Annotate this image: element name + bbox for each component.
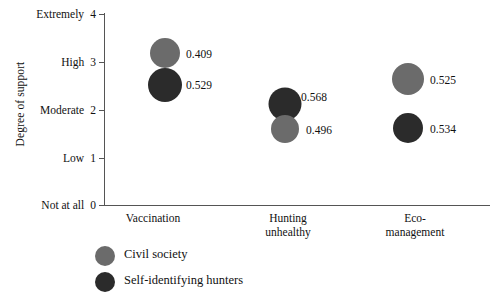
y-tick-4-num: 4 bbox=[87, 8, 96, 20]
x-category-eco-management-line1: Eco- bbox=[345, 212, 485, 226]
bubble-value-vaccination-civil-society: 0.409 bbox=[186, 48, 212, 60]
bubble-value-hunting-unhealthy-hunters: 0.568 bbox=[301, 91, 327, 103]
x-category-vaccination-line1: Vaccination bbox=[83, 212, 223, 226]
legend-label-hunters: Self-identifying hunters bbox=[124, 273, 243, 288]
tick-mark-4 bbox=[99, 14, 104, 15]
tick-mark-1 bbox=[99, 158, 104, 159]
x-category-vaccination: Vaccination bbox=[83, 212, 223, 226]
x-category-hunting-unhealthy: Hunting unhealthy bbox=[218, 212, 358, 239]
x-category-eco-management-line2: management bbox=[345, 226, 485, 240]
bubble-value-eco-management-civil-society: 0.525 bbox=[430, 74, 456, 86]
tick-mark-3 bbox=[99, 62, 104, 63]
bubble-vaccination-civil-society[interactable] bbox=[150, 38, 180, 68]
bubble-value-eco-management-hunters: 0.534 bbox=[430, 123, 456, 135]
bubble-chart: Degree of support Extremely 4 High 3 Mod… bbox=[0, 0, 497, 308]
y-tick-3-num: 3 bbox=[87, 56, 96, 68]
bubble-value-hunting-unhealthy-civil-society: 0.496 bbox=[306, 124, 332, 136]
bubble-vaccination-hunters[interactable] bbox=[148, 68, 182, 102]
legend-swatch-civil-society-icon bbox=[95, 246, 115, 266]
y-tick-2-name: Moderate bbox=[40, 104, 84, 116]
bubble-value-vaccination-hunters: 0.529 bbox=[186, 79, 212, 91]
y-tick-4-name: Extremely bbox=[36, 8, 84, 20]
y-tick-2-num: 2 bbox=[87, 104, 96, 116]
y-tick-0-num: 0 bbox=[87, 199, 96, 211]
x-category-hunting-unhealthy-line1: Hunting bbox=[218, 212, 358, 226]
tick-mark-2 bbox=[99, 110, 104, 111]
bubble-eco-management-civil-society[interactable] bbox=[392, 63, 424, 95]
y-tick-0-name: Not at all bbox=[41, 199, 84, 211]
tick-mark-0 bbox=[99, 205, 104, 206]
x-category-eco-management: Eco- management bbox=[345, 212, 485, 239]
y-tick-1-name: Low bbox=[63, 152, 84, 164]
y-tick-1-num: 1 bbox=[87, 152, 96, 164]
x-category-hunting-unhealthy-line2: unhealthy bbox=[218, 226, 358, 240]
x-axis-line bbox=[104, 205, 490, 206]
y-axis-line bbox=[104, 13, 105, 206]
y-tick-3-name: High bbox=[61, 56, 84, 68]
legend-swatch-hunters-icon bbox=[95, 272, 115, 292]
legend-label-civil-society: Civil society bbox=[124, 247, 188, 262]
bubble-eco-management-hunters[interactable] bbox=[393, 113, 423, 143]
bubble-hunting-unhealthy-civil-society[interactable] bbox=[271, 115, 299, 143]
